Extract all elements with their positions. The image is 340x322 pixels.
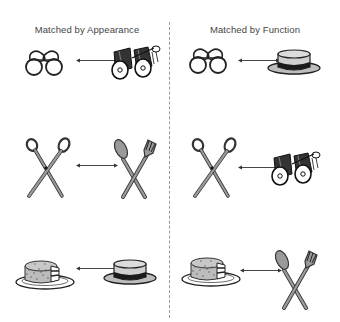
row1-right-hat [267, 48, 323, 76]
hat-icon [267, 48, 323, 76]
column-title-appearance: Matched by Appearance [35, 24, 140, 35]
double-arrow-icon [76, 162, 118, 169]
column-divider [169, 22, 170, 318]
spoon-and-fork-icon [276, 248, 320, 312]
scissors-icon [24, 138, 70, 200]
binoculars-icon [110, 44, 162, 80]
cake-icon [15, 258, 75, 290]
row2-left-spoon-and-fork [115, 137, 159, 201]
row2-right-scissors [190, 138, 236, 200]
row3-left-hat [103, 258, 159, 286]
row2-left-arrow [76, 162, 118, 169]
row2-left-scissors [24, 138, 70, 200]
eyeglasses-icon [186, 44, 232, 76]
column-title-function: Matched by Function [210, 24, 300, 35]
row1-right-eyeglasses [186, 44, 232, 76]
row3-right-cake-on-plate [181, 255, 241, 287]
scissors-icon [190, 138, 236, 200]
row1-left-eyeglasses [22, 46, 68, 78]
row2-right-binoculars [270, 150, 322, 186]
binoculars-icon [270, 150, 322, 186]
spoon-and-fork-icon [115, 137, 159, 201]
row1-left-binoculars [110, 44, 162, 80]
row3-left-cake-on-plate [15, 258, 75, 290]
eyeglasses-icon [22, 46, 68, 78]
row3-right-spoon-and-fork [276, 248, 320, 312]
cake-icon [181, 255, 241, 287]
hat-icon [103, 258, 159, 286]
